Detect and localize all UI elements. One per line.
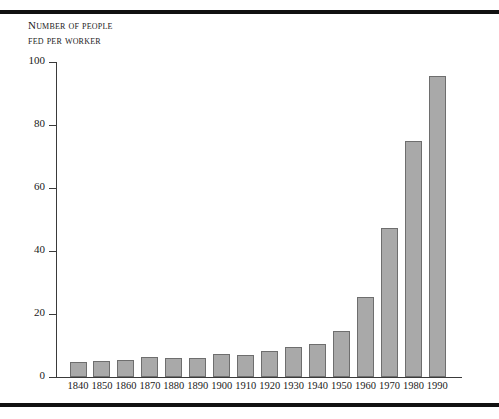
y-tick-label-100: 100 [29,54,46,66]
figure-container: Number of people fed per worker 02040608… [0,0,499,419]
y-tick-60: 60 [49,188,57,189]
bar-1970 [381,228,398,377]
bar-1850 [93,361,110,377]
bar-1920 [261,351,278,377]
y-tick-20: 20 [49,314,57,315]
y-tick-40: 40 [49,251,57,252]
y-axis-title-line-1: Number of people [28,18,113,33]
bar-1840 [70,362,87,377]
x-axis-tick-labels: 1840185018601870188018901900191019201930… [56,380,462,396]
x-tick-label-1990: 1990 [420,380,454,391]
bar-1880 [165,358,182,377]
bar-1960 [357,297,374,377]
bottom-rule [0,403,499,407]
y-tick-label-60: 60 [34,180,45,192]
y-tick-label-0: 0 [40,369,46,381]
y-tick-label-80: 80 [34,117,45,129]
y-tick-0: 0 [49,377,57,378]
bar-1890 [189,358,206,377]
y-tick-label-40: 40 [34,243,45,255]
bar-1910 [237,355,254,377]
y-axis-title: Number of people fed per worker [28,18,113,48]
bar-1990 [429,76,446,377]
x-axis-line [56,377,462,378]
bar-1940 [309,344,326,377]
bar-1980 [405,141,422,377]
y-axis-title-line-2: fed per worker [28,33,113,48]
bar-1930 [285,347,302,377]
bar-1900 [213,354,230,377]
bar-1870 [141,357,158,377]
bar-1950 [333,331,350,377]
top-rule [0,10,499,14]
y-tick-label-20: 20 [34,306,45,318]
bar-series [56,62,462,377]
y-tick-100: 100 [49,62,57,63]
bar-1860 [117,360,134,377]
plot-area: 020406080100 [56,62,462,377]
y-tick-80: 80 [49,125,57,126]
